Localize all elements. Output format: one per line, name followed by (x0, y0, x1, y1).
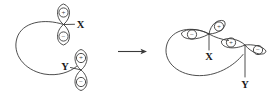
reaction-arrow (118, 49, 147, 54)
product-x-label: X (205, 51, 213, 62)
product-y-label: Y (241, 79, 249, 90)
reactant-y-label: Y (61, 61, 69, 72)
product-overlap-arc (209, 34, 229, 41)
product-atom-x: + − X (181, 20, 225, 62)
reactant-structure: + − X + − Y (16, 4, 87, 91)
product-structure: + − X + − Y (166, 20, 266, 89)
reactant-y-plus-sign: + (79, 54, 83, 62)
reactant-atom-x: + − X (58, 4, 85, 45)
product-x-minus-sign: − (190, 31, 194, 39)
reactant-atom-y: + − Y (61, 50, 87, 91)
reactant-y-minus-sign: − (79, 78, 83, 86)
reactant-x-label: X (77, 19, 85, 30)
orbital-diagram: + − X + − Y (0, 0, 280, 101)
orbital-diagram-canvas: + − X + − Y (0, 0, 280, 101)
reactant-x-minus-sign: − (62, 33, 66, 41)
product-y-plus-sign: + (229, 39, 233, 47)
product-y-minus-sign: − (256, 46, 260, 54)
product-x-plus-sign: + (217, 23, 221, 31)
reactant-x-plus-sign: + (62, 9, 66, 17)
product-atom-y: + − Y (221, 38, 266, 90)
